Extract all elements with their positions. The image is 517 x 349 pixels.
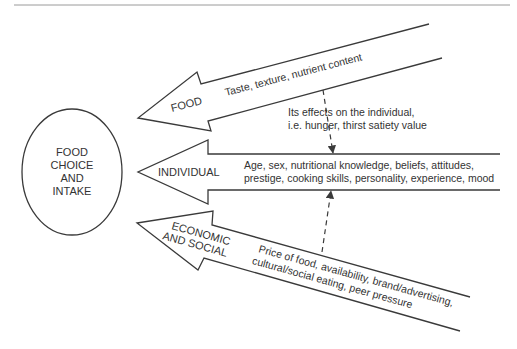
economic-social-arrow: ECONOMIC AND SOCIAL Price of food, avail… xyxy=(137,211,470,331)
individual-content-line-2: prestige, cooking skills, personality, e… xyxy=(244,172,494,184)
food-arrow-content: Taste, texture, nutrient content xyxy=(223,50,363,97)
center-node: FOOD CHOICE AND INTAKE xyxy=(22,109,122,235)
individual-arrow-label: INDIVIDUAL xyxy=(158,166,220,178)
center-line-1: FOOD xyxy=(56,146,88,158)
center-line-4: INTAKE xyxy=(53,185,92,197)
center-line-3: AND xyxy=(60,172,83,184)
economic-to-individual-dashed-arrow xyxy=(322,191,331,252)
individual-arrow: INDIVIDUAL Age, sex, nutritional knowled… xyxy=(138,140,500,204)
food-arrow-label: FOOD xyxy=(169,94,203,114)
center-line-2: CHOICE xyxy=(51,159,94,171)
annotation-line-1: Its effects on the individual, xyxy=(288,106,414,118)
individual-content-line-1: Age, sex, nutritional knowledge, beliefs… xyxy=(244,159,474,171)
food-choice-diagram: FOOD CHOICE AND INTAKE FOOD Taste, textu… xyxy=(0,0,517,349)
annotation-line-2: i.e. hunger, thirst satiety value xyxy=(288,119,427,131)
